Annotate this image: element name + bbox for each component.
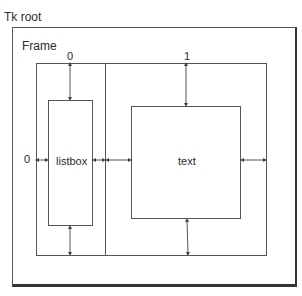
padding-arrows bbox=[0, 0, 302, 296]
